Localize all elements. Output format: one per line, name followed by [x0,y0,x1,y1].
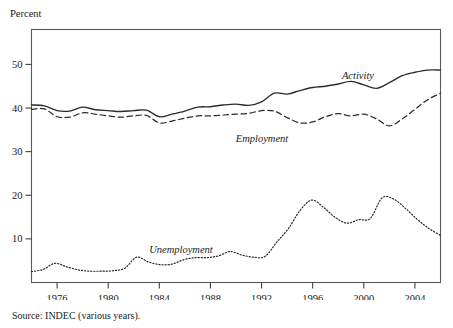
y-tick-label: 30 [12,146,23,157]
series-line-activity [32,70,441,117]
y-axis-ticks: 1020304050 [12,59,32,244]
series-annotation-group: ActivityEmploymentUnemployment [149,70,374,255]
x-tick-label: 2004 [404,293,426,301]
y-tick-label: 10 [12,233,23,244]
series-annotation-unemployment: Unemployment [149,244,214,255]
source-note: Source: INDEC (various years). [12,310,140,321]
x-tick-label: 1976 [47,293,68,301]
plot-frame-group [32,30,441,283]
line-chart-plot: 1020304050 19761980198419881992199620002… [0,0,453,300]
plot-frame [32,30,441,283]
x-tick-label: 1980 [98,293,119,301]
data-series-group [32,70,441,272]
x-axis-ticks: 19761980198419881992199620002004 [47,283,427,301]
figure-container: g Percent 1020304050 1976198019841988199… [0,0,453,328]
x-tick-label: 1992 [251,293,272,301]
series-annotation-activity: Activity [341,70,374,81]
series-line-unemployment [32,196,441,271]
x-tick-label: 1988 [200,293,221,301]
y-tick-label: 20 [12,190,23,201]
series-annotation-employment: Employment [235,133,290,144]
y-tick-label: 50 [12,59,23,70]
y-tick-label: 40 [12,103,23,114]
x-tick-label: 1996 [302,293,323,301]
x-tick-label: 1984 [149,293,171,301]
x-tick-label: 2000 [353,293,374,301]
